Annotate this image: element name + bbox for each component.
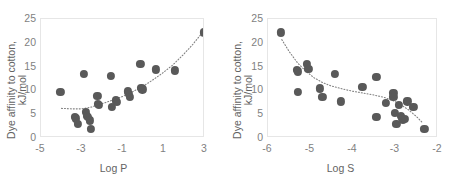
x-tick-label: 3 <box>191 142 217 154</box>
x-tick-label: -4 <box>339 142 365 154</box>
x-tick-label: -3 <box>382 142 408 154</box>
chart-panel-log-p: Dye affinity to cotton, kJ/mol 051015202… <box>0 0 227 180</box>
x-tick-label: -6 <box>254 142 280 154</box>
x-axis-title-left: Log P <box>0 162 227 174</box>
x-tick-label: -3 <box>68 142 94 154</box>
x-tick-label: -5 <box>27 142 53 154</box>
plot-area-left <box>40 18 204 137</box>
x-tick-label: -5 <box>297 142 323 154</box>
x-tick-label: 1 <box>150 142 176 154</box>
trendline-left <box>41 19 203 136</box>
x-tick-label: -1 <box>109 142 135 154</box>
x-axis-title-right: Log S <box>227 162 454 174</box>
data-point <box>200 28 204 36</box>
dual-scatter-figure: Dye affinity to cotton, kJ/mol 051015202… <box>0 0 454 180</box>
trendline-right <box>268 19 436 136</box>
chart-panel-log-s: Dye affinity to cotton, kJ/mol 051015202… <box>227 0 454 180</box>
plot-area-right <box>267 18 437 137</box>
x-tick-label: -2 <box>424 142 450 154</box>
